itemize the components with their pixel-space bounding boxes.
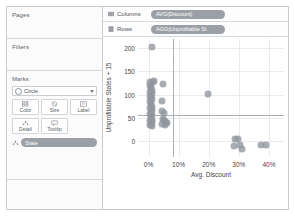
x-tick-label: 40% [262,161,275,168]
filters-card-title: Filters [12,43,97,51]
chevron-down-icon[interactable] [90,90,94,93]
color-button[interactable]: Color [12,99,39,115]
data-point[interactable] [149,43,156,50]
gridline-horizontal [138,95,284,96]
tooltip-button[interactable]: Tooltip [41,118,68,134]
x-tick-label: 0% [144,161,153,168]
tooltip-icon [51,120,58,126]
detail-button-label: Detail [19,126,32,132]
label-button[interactable]: Label [70,99,97,115]
data-point[interactable] [148,123,155,130]
data-point[interactable] [204,91,211,98]
gridline-vertical [269,39,270,157]
gridline-vertical [179,39,180,157]
columns-grid-icon [108,11,114,17]
y-axis-ticks: 050100150200 [113,37,135,157]
label-icon [80,101,87,107]
y-tick-label: 100 [113,91,135,98]
worksheet-frame: Pages Filters Marks Circle Co [6,6,289,210]
data-point[interactable] [159,81,166,88]
marks-card-title: Marks [12,75,97,83]
columns-pill-avg-discount[interactable]: AVG(Discount) [151,10,225,19]
main-panel: Columns AVG(Discount) Rows AGG(Unprofita… [103,7,288,209]
rows-shelf[interactable]: Rows AGG(Unprofitable St [103,22,288,37]
marks-card: Marks Circle Color [7,71,102,180]
size-button-label: Size [50,107,60,113]
data-point[interactable] [239,145,246,152]
pages-card[interactable]: Pages [7,7,102,39]
color-icon [22,101,29,107]
y-tick-label: 150 [113,68,135,75]
x-tick-label: 30% [232,161,245,168]
rows-shelf-label: Rows [117,26,151,32]
data-point[interactable] [162,121,169,128]
gridline-horizontal [138,48,284,49]
y-tick-label: 50 [113,114,135,121]
y-tick-label: 200 [113,45,135,52]
detail-icon [22,120,29,126]
tooltip-button-label: Tooltip [47,126,61,132]
marks-buttons-row-2: Detail Tooltip [12,118,97,134]
size-icon [51,101,58,107]
detail-button[interactable]: Detail [12,118,39,134]
gridline-vertical [209,39,210,157]
data-point[interactable] [158,98,165,105]
tableau-worksheet: Pages Filters Marks Circle Co [0,0,295,216]
x-tick-label: 20% [202,161,215,168]
x-axis-title: Avg. Discount [138,171,284,178]
color-button-label: Color [20,107,32,113]
y-tick-label: 0 [113,137,135,144]
plot-area [138,39,284,157]
x-axis-ticks: 0%10%20%30%40% [138,161,284,171]
marks-button-placeholder [70,118,97,134]
scatter-plot: Unprofitable States + 15 050100150200 0%… [103,37,288,209]
sidebar-empty-space [7,180,102,210]
mark-type-label: Circle [24,88,90,94]
columns-shelf[interactable]: Columns AVG(Discount) [103,7,288,22]
rows-pill-unprofitable-states[interactable]: AGG(Unprofitable St [151,25,225,34]
visualization-canvas[interactable]: Unprofitable States + 15 050100150200 0%… [103,37,288,209]
data-point[interactable] [262,141,269,148]
label-button-label: Label [77,107,89,113]
x-tick-label: 10% [172,161,185,168]
size-button[interactable]: Size [41,99,68,115]
pages-card-title: Pages [12,11,97,19]
mark-type-dropdown[interactable]: Circle [12,86,97,96]
rows-grid-icon [108,26,114,32]
detail-icon [12,140,19,146]
filters-card[interactable]: Filters [7,39,102,71]
reference-line [173,39,174,157]
left-sidebar: Pages Filters Marks Circle Co [7,7,103,209]
columns-shelf-label: Columns [117,11,151,17]
marks-field-row: State [12,138,97,147]
marks-field-pill-state[interactable]: State [21,138,97,147]
circle-icon [15,88,22,95]
marks-buttons-row-1: Color Size Label [12,99,97,115]
gridline-horizontal [138,71,284,72]
